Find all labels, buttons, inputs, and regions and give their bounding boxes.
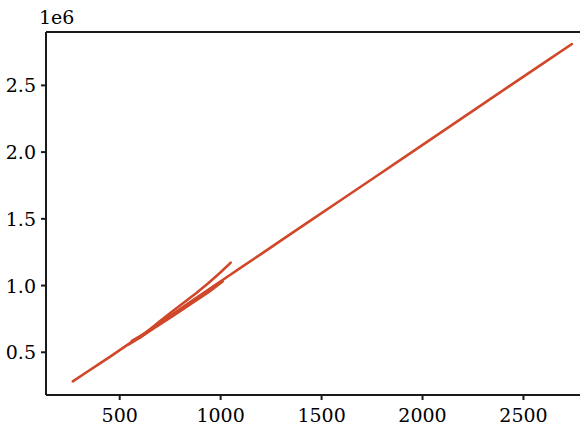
tick-marks (41, 85, 523, 400)
chart-figure: 1e6 0.51.01.52.02.5 5001000150020002500 (0, 0, 580, 430)
x-tick-label: 2000 (398, 406, 446, 425)
y-tick-label: 1.5 (0, 209, 36, 228)
plot-canvas (0, 0, 580, 430)
data-series-group (73, 44, 572, 381)
data-line-upper-branch (148, 263, 231, 331)
axes-spines (46, 32, 580, 395)
data-line-tangle-segment-b (132, 292, 207, 341)
x-tick-label: 2500 (499, 406, 547, 425)
x-tick-label: 500 (102, 406, 138, 425)
x-tick-label: 1500 (297, 406, 345, 425)
y-tick-label: 2.5 (0, 76, 36, 95)
x-tick-label: 1000 (196, 406, 244, 425)
y-tick-label: 1.0 (0, 276, 36, 295)
y-tick-label: 0.5 (0, 343, 36, 362)
y-axis-offset-label: 1e6 (39, 8, 74, 27)
y-tick-label: 2.0 (0, 143, 36, 162)
data-line-tangle-segment-c (140, 282, 223, 338)
